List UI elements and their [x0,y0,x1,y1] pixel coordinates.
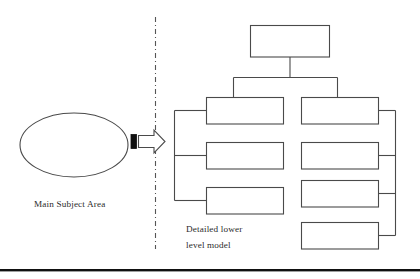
node-right-3[interactable] [302,181,379,208]
footer-rule [0,269,420,271]
node-root[interactable] [251,26,330,58]
arrow-tail-bar [131,135,137,149]
diagram-svg: Main Subject Area Detailed lower level m… [0,0,420,279]
node-left-3[interactable] [207,188,284,215]
diagram-canvas: Main Subject Area Detailed lower level m… [0,0,420,279]
main-subject-ellipse[interactable] [20,113,128,177]
block-arrow-right-icon [139,130,166,153]
node-left-2[interactable] [207,143,284,170]
node-right-2[interactable] [302,143,379,170]
main-subject-caption: Main Subject Area [34,199,105,209]
detailed-model-caption-line1: Detailed lower [186,224,242,234]
node-left-1[interactable] [207,98,284,125]
detailed-model-caption-line2: level model [186,240,231,250]
node-right-1[interactable] [302,98,379,125]
node-right-4[interactable] [302,223,379,250]
